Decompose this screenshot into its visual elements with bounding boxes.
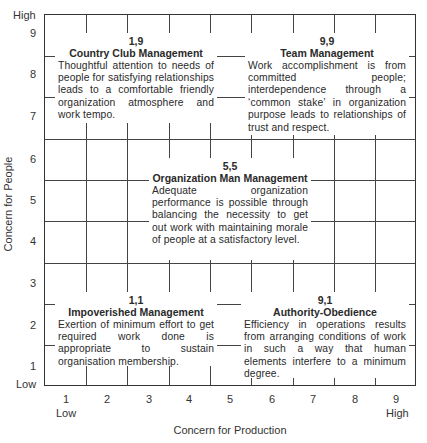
x-tick-9: 9: [386, 394, 406, 405]
style-title: Country Club Management: [58, 47, 214, 60]
x-tick-6: 6: [262, 394, 282, 405]
y-axis-high-label: High: [13, 10, 36, 21]
y-tick-5: 5: [22, 195, 36, 206]
style-coord: 5,5: [152, 160, 308, 172]
y-axis-low-label: Low: [16, 379, 36, 390]
style-coord: 1,1: [58, 294, 214, 306]
y-tick-4: 4: [22, 236, 36, 247]
x-axis-high-label: High: [386, 408, 409, 419]
style-coord: 9,9: [248, 35, 406, 47]
style-description: Thoughtful attention to needs of people …: [58, 60, 214, 122]
y-axis-label: Concern for People: [2, 154, 14, 254]
y-tick-6: 6: [22, 154, 36, 165]
style-description: Adequate organization performance is pos…: [152, 185, 308, 247]
y-tick-1: 1: [22, 361, 36, 372]
y-tick-7: 7: [22, 111, 36, 122]
grid-line-h6: [45, 263, 415, 264]
style-title: Team Management: [248, 47, 406, 60]
style-title: Authority-Obedience: [244, 306, 406, 319]
x-tick-5: 5: [220, 394, 240, 405]
style-country-club: 1,9 Country Club Management Thoughtful a…: [55, 33, 217, 123]
x-tick-8: 8: [345, 394, 365, 405]
style-team: 9,9 Team Management Work accomplishment …: [245, 33, 409, 135]
x-axis-label: Concern for Production: [44, 424, 416, 436]
style-coord: 1,9: [58, 35, 214, 47]
style-impoverished: 1,1 Impoverished Management Exertion of …: [55, 292, 217, 366]
x-tick-3: 3: [139, 394, 159, 405]
style-organization-man: 5,5 Organization Man Management Adequate…: [149, 158, 311, 260]
style-description: Exertion of minimum effort to get requir…: [58, 319, 214, 369]
x-axis-low-label: Low: [56, 408, 76, 419]
style-title: Organization Man Management: [152, 172, 308, 185]
style-coord: 9,1: [244, 294, 406, 306]
managerial-grid: 1,9 Country Club Management Thoughtful a…: [44, 14, 416, 386]
x-tick-7: 7: [303, 394, 323, 405]
style-title: Impoverished Management: [58, 306, 214, 319]
y-tick-8: 8: [22, 69, 36, 80]
style-description: Work accomplishment is from committed pe…: [248, 60, 406, 134]
x-tick-1: 1: [56, 394, 76, 405]
style-description: Efficiency in operations results from ar…: [244, 319, 406, 381]
y-tick-3: 3: [22, 278, 36, 289]
grid-line-h3: [45, 139, 415, 140]
x-tick-2: 2: [97, 394, 117, 405]
y-tick-9: 9: [22, 28, 36, 39]
style-authority-obedience: 9,1 Authority-Obedience Efficiency in op…: [241, 292, 409, 378]
x-tick-4: 4: [179, 394, 199, 405]
y-tick-2: 2: [22, 320, 36, 331]
